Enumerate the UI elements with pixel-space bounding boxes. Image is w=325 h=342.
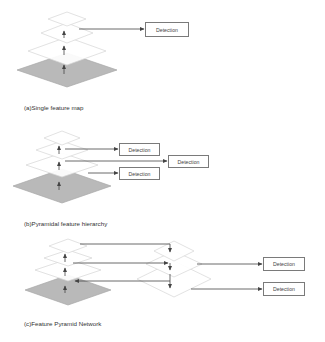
detection-box-c2: Detection	[263, 282, 305, 296]
detection-box-b3: Detection	[119, 167, 160, 180]
detection-box-b1: Detection	[119, 143, 160, 156]
detection-box-c1: Detection	[263, 257, 305, 271]
feature-map-layer	[44, 131, 80, 145]
detection-box-b2: Detection	[168, 155, 209, 168]
panel-single-feature-map	[17, 12, 144, 87]
feature-map-layer	[49, 239, 87, 253]
caption-pyramidal-feature-hierarchy: (b)Pyramidal feature hierarchy	[24, 220, 107, 227]
detection-box-a1: Detection	[145, 22, 189, 37]
panel-feature-pyramid-network	[25, 239, 262, 305]
feature-map-layer	[48, 12, 86, 26]
caption-feature-pyramid-network: (c)Feature Pyramid Network	[24, 320, 101, 327]
caption-single-feature-map: (a)Single feature map	[24, 104, 84, 111]
